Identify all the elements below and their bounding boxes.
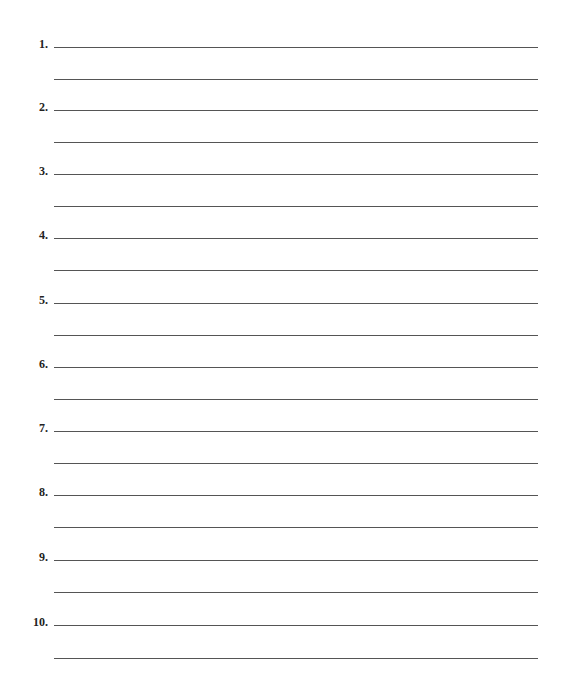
item-number: 10. xyxy=(33,616,48,628)
answer-line[interactable] xyxy=(54,238,538,239)
answer-line-continuation[interactable] xyxy=(54,270,538,271)
answer-line[interactable] xyxy=(54,560,538,561)
item-number: 4. xyxy=(39,229,48,241)
answer-line-continuation[interactable] xyxy=(54,335,538,336)
answer-line[interactable] xyxy=(54,367,538,368)
answer-line-continuation[interactable] xyxy=(54,79,538,80)
answer-line-continuation[interactable] xyxy=(54,142,538,143)
answer-line[interactable] xyxy=(54,431,538,432)
item-number: 7. xyxy=(39,422,48,434)
answer-line-continuation[interactable] xyxy=(54,592,538,593)
answer-line[interactable] xyxy=(54,495,538,496)
answer-line[interactable] xyxy=(54,110,538,111)
numbered-item-10: 10. xyxy=(0,0,566,64)
item-number: 2. xyxy=(39,101,48,113)
item-number: 6. xyxy=(39,358,48,370)
answer-line[interactable] xyxy=(54,174,538,175)
item-number: 3. xyxy=(39,165,48,177)
item-number: 9. xyxy=(39,551,48,563)
item-number: 8. xyxy=(39,486,48,498)
answer-line-continuation[interactable] xyxy=(54,463,538,464)
answer-line[interactable] xyxy=(54,303,538,304)
answer-line[interactable] xyxy=(54,625,538,626)
answer-line-continuation[interactable] xyxy=(54,206,538,207)
answer-line-continuation[interactable] xyxy=(54,399,538,400)
answer-line-continuation[interactable] xyxy=(54,527,538,528)
answer-line-continuation[interactable] xyxy=(54,658,538,659)
item-number: 5. xyxy=(39,294,48,306)
